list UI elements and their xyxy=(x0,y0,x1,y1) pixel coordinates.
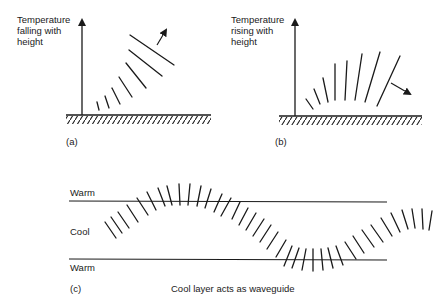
panel-c xyxy=(69,184,432,271)
panel-tag-a: (a) xyxy=(66,136,78,147)
panel-a xyxy=(66,20,211,124)
layer-label-bottom-warm: Warm xyxy=(70,262,95,273)
panel-tag-b: (b) xyxy=(275,136,287,147)
figure-caption: Cool layer acts as waveguide xyxy=(171,283,295,294)
layer-label-top-warm: Warm xyxy=(70,187,95,198)
wavefronts-a xyxy=(97,35,174,110)
panel-tag-c: (c) xyxy=(70,283,81,294)
axis-label-a: Temperature falling with height xyxy=(17,14,70,47)
ground-hatch-b xyxy=(279,117,422,125)
upper-boundary-line xyxy=(69,201,387,202)
wavefronts-c xyxy=(105,184,432,271)
lower-boundary-line xyxy=(69,259,387,260)
ground-hatch-a xyxy=(66,116,211,124)
wavefronts-b xyxy=(306,52,400,109)
ray-arrow-a xyxy=(157,30,166,45)
layer-label-cool: Cool xyxy=(70,226,90,237)
ray-arrow-b xyxy=(391,83,410,94)
panel-b xyxy=(279,20,422,125)
axis-label-b: Temperature rising with height xyxy=(231,14,284,47)
